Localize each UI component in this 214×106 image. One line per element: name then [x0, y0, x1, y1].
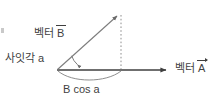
projection-brace — [58, 71, 121, 80]
angle-arc — [72, 56, 78, 65]
angle-label: 사잇각 a — [5, 53, 44, 64]
vector-b-label-prefix: 벡터 — [34, 27, 54, 39]
vector-a-symbol: A — [198, 62, 205, 74]
vector-b-symbol: B — [57, 27, 64, 39]
vector-b-line — [58, 16, 118, 70]
vector-projection-diagram: 벡터 B 사잇각 a 벡터 A B cos a — [0, 0, 214, 106]
vector-a-label: 벡터 A — [175, 63, 205, 74]
projection-length-label: B cos a — [63, 84, 100, 95]
scan-artifact-speck — [1, 28, 4, 33]
vector-a-label-prefix: 벡터 — [175, 62, 195, 74]
vector-b-symbol-group: B — [57, 28, 64, 39]
vector-bar-icon — [56, 25, 66, 26]
vector-arrowhead-icon — [205, 58, 208, 62]
vector-a-symbol-group: A — [198, 63, 205, 74]
vector-b-label: 벡터 B — [34, 28, 64, 39]
